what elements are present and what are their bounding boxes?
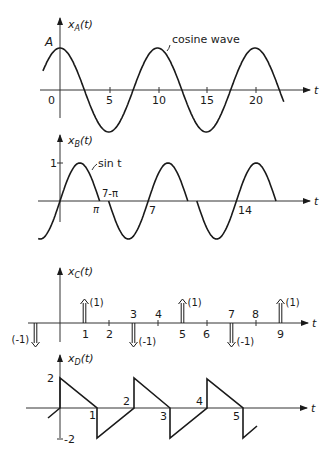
a-t-label: t [314, 84, 319, 97]
c-impulses: (-1)(1)(-1)(1)(-1)(1) [12, 297, 300, 347]
b-7-label: 7 [149, 204, 156, 217]
a-cosine-annotation: cosine wave [172, 33, 240, 46]
signals-diagram: xA(t) A cosine wave 0 5 10 15 20 t xB(t)… [0, 0, 332, 462]
b-annotation-leader [92, 164, 97, 170]
a-ylabel: xA(t) [67, 18, 93, 33]
a-amplitude-label: A [44, 35, 53, 49]
c-tick-9: 9 [277, 328, 284, 341]
panel-d: xD(t) 2 -2 1 2 3 4 5 t [26, 352, 316, 446]
impulse-weight-label: (-1) [12, 334, 30, 345]
c-tick-3: 3 [130, 308, 137, 321]
panel-c: xC(t) (-1)(1)(-1)(1)(-1)(1) 1 2 3 4 5 6 … [12, 265, 318, 347]
c-tick-8: 8 [252, 308, 259, 321]
impulse-weight-label: (1) [188, 297, 202, 308]
d-ylabel-neg-two: -2 [64, 433, 75, 446]
d-tick-3: 3 [160, 410, 167, 423]
d-t-label: t [311, 402, 316, 415]
panel-a: xA(t) A cosine wave 0 5 10 15 20 t [40, 18, 319, 132]
impulse-down: (-1) [228, 323, 255, 347]
d-ylabel: xD(t) [67, 352, 94, 367]
c-tick-2: 2 [106, 328, 113, 341]
d-ylabel-two: 2 [47, 372, 54, 385]
a-tick-0: 0 [48, 94, 55, 107]
impulse-down: (-1) [130, 323, 157, 347]
a-tick-15: 15 [200, 94, 214, 107]
impulse-up: (1) [81, 297, 104, 323]
a-tick-20: 20 [249, 94, 263, 107]
b-sin-annotation: sin t [98, 157, 122, 170]
impulse-up: (1) [277, 297, 300, 323]
b-t-label: t [314, 195, 319, 208]
impulse-up: (1) [179, 297, 202, 323]
b-pi-label: π [93, 204, 100, 215]
d-tick-1: 1 [89, 409, 96, 422]
d-tick-5: 5 [233, 410, 240, 423]
b-ylabel: xB(t) [67, 134, 93, 149]
impulse-weight-label: (-1) [139, 336, 157, 347]
c-tick-7: 7 [228, 308, 235, 321]
b-ylabel-one: 1 [50, 157, 57, 170]
impulse-weight-label: (1) [286, 297, 300, 308]
a-tick-5: 5 [106, 94, 113, 107]
c-t-label: t [312, 317, 317, 330]
impulse-down: (-1) [12, 323, 40, 347]
c-tick-6: 6 [203, 328, 210, 341]
impulse-weight-label: (1) [90, 297, 104, 308]
a-tick-10: 10 [152, 94, 166, 107]
impulse-weight-label: (-1) [237, 336, 255, 347]
c-tick-1: 1 [82, 328, 89, 341]
c-ylabel: xC(t) [67, 265, 93, 280]
d-tick-4: 4 [196, 395, 203, 408]
d-tick-2: 2 [123, 395, 130, 408]
c-tick-5: 5 [179, 328, 186, 341]
b-7minuspi-label: 7-π [102, 188, 118, 199]
c-tick-4: 4 [155, 308, 162, 321]
panel-b: xB(t) 1 sin t π 7-π 7 14 t [38, 134, 319, 239]
b-14-label: 14 [238, 204, 252, 217]
a-annotation-leader [167, 45, 170, 51]
